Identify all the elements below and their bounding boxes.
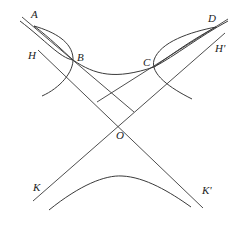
label-c: C — [143, 57, 150, 68]
label-k: K — [33, 182, 40, 193]
label-b: B — [77, 52, 84, 63]
label-d: D — [208, 13, 216, 24]
lower-hyperbola-branch — [49, 176, 191, 210]
right-conic-arc — [153, 27, 216, 99]
label-h-prime: H' — [215, 43, 225, 54]
label-a: A — [31, 9, 38, 20]
label-h: H — [28, 50, 36, 61]
label-k-prime: K' — [202, 185, 212, 196]
upper-hyperbola-branch — [20, 21, 228, 74]
asymptote-line-h-prime-k — [33, 33, 225, 201]
left-conic-arc — [34, 26, 73, 96]
hyperbola-diagram: A B C D H H' O K K' — [0, 0, 239, 225]
line-ab — [22, 17, 134, 112]
chord-ab — [34, 26, 73, 60]
label-o: O — [116, 130, 124, 141]
